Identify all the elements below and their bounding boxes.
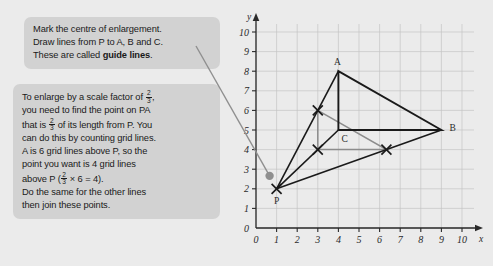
fraction-numerator: 2 [61,172,67,179]
callout-1-line-3-text: These are called [33,50,103,60]
y-axis-tick-label: 0 [244,223,249,234]
y-axis-tick-label: 8 [244,66,249,77]
y-axis-tick-label: 7 [244,85,250,96]
x-axis-tick-label: 6 [377,234,382,245]
y-axis-label: y [246,12,252,22]
x-axis-tick-label: 10 [457,234,467,245]
callout-2-line-1-tail: , [152,92,154,102]
diagram-canvas: 012345678910012345678910yxPABC [228,6,490,260]
fraction-two-thirds-1: 23 [146,90,152,104]
callout-1-line-3: These are called guide lines. [33,49,211,62]
callout-2-line-9: then join these points. [22,199,211,212]
y-axis-tick-label: 10 [239,27,249,38]
callout-2-line-1: To enlarge by a scale factor of 23, [22,90,211,104]
y-axis-tick-label: 2 [244,183,249,194]
fraction-numerator: 2 [146,90,152,97]
page-background: Mark the centre of enlargement. Draw lin… [0,0,493,266]
callout-2-line-3-text: that is [22,120,49,130]
y-axis-tick-label: 3 [243,164,249,175]
fraction-denominator: 3 [146,97,152,105]
callout-2-line-4: can do this by counting grid lines. [22,132,211,145]
callout-2-line-3: that is 23 of its length from P. You [22,118,211,132]
callout-2-line-7: above P (23 × 6 = 4). [22,172,211,186]
callout-guide-lines: Mark the centre of enlargement. Draw lin… [24,17,220,69]
callout-1-line-1: Mark the centre of enlargement. [33,23,211,36]
point-label-A: A [334,57,341,67]
fraction-numerator: 2 [49,118,55,125]
x-axis-tick-label: 7 [398,234,404,245]
y-axis-tick-label: 1 [244,203,249,214]
callout-2-line-6: point you want is 4 grid lines [22,158,211,171]
callout-2-line-2: you need to find the point on PA [22,104,211,117]
centre-of-enlargement-dot [265,172,273,180]
x-axis-tick-label: 9 [439,234,444,245]
y-axis-arrow [253,13,260,21]
y-axis-tick-label: 6 [244,105,249,116]
original-triangle [338,71,441,130]
callout-2-line-7-tail: × 6 = 4). [67,174,103,184]
x-axis-tick-label: 3 [314,234,320,245]
x-axis-tick-label: 8 [418,234,423,245]
enlargement-diagram: 012345678910012345678910yxPABC [228,6,490,260]
x-axis-label: x [478,234,484,244]
x-axis-tick-label: 2 [295,234,300,245]
callout-2-line-1-text: To enlarge by a scale factor of [22,92,145,102]
x-axis-tick-label: 5 [357,234,362,245]
callout-2-line-3-tail: of its length from P. You [55,120,152,130]
guide-line [277,130,339,189]
x-axis-tick-label: 0 [254,234,259,245]
y-axis-tick-label: 5 [244,125,249,136]
y-axis-tick-label: 9 [244,46,249,57]
callout-1-line-2: Draw lines from P to A, B and C. [33,36,211,49]
x-axis-tick-label: 4 [336,234,341,245]
point-label-B: B [449,123,455,133]
callout-1-bold-term: guide lines [103,50,150,60]
callout-1-period: . [150,50,152,60]
callout-2-line-8: Do the same for the other lines [22,186,211,199]
x-axis-tick-label: 1 [274,234,279,245]
fraction-denominator: 3 [61,178,67,186]
fraction-denominator: 3 [49,124,55,132]
fraction-two-thirds-3: 23 [61,172,67,186]
point-label-C: C [341,134,347,144]
x-axis-arrow [475,225,483,232]
fraction-two-thirds-2: 23 [49,118,55,132]
point-label-P: P [274,196,279,206]
callout-2-line-7-text: above P ( [22,174,61,184]
callout-2-line-5: A is 6 grid lines above P, so the [22,145,211,158]
y-axis-tick-label: 4 [244,144,249,155]
callout-scale-factor: To enlarge by a scale factor of 23, you … [13,84,220,219]
